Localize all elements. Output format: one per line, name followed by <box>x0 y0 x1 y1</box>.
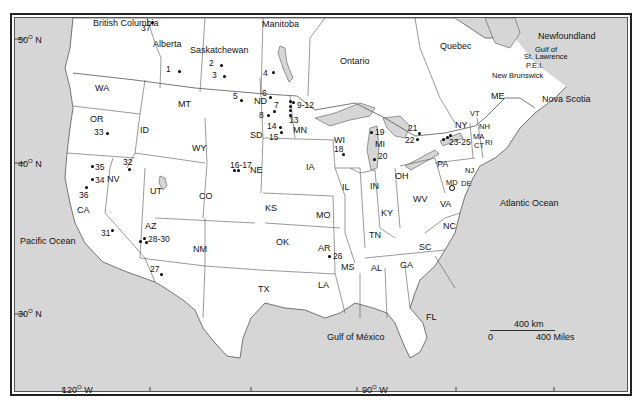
state-pa: PA <box>437 160 448 169</box>
site-marker <box>240 99 243 102</box>
state-wv: WV <box>413 195 428 204</box>
site-label-9-12: 9-12 <box>297 101 314 110</box>
province-manitoba: Manitoba <box>262 20 299 29</box>
site-label-20: 20 <box>378 152 387 161</box>
state-nv: NV <box>107 175 120 184</box>
state-al: AL <box>371 264 382 273</box>
state-nm: NM <box>193 245 207 254</box>
scale-miles-label: 400 Miles <box>536 333 575 342</box>
site-marker <box>279 126 282 129</box>
site-label-15: 15 <box>269 133 278 142</box>
site-label-34: 34 <box>95 176 104 185</box>
state-mn: MN <box>293 126 307 135</box>
site-marker <box>111 229 114 232</box>
state-mt: MT <box>178 100 191 109</box>
scale-bar-line <box>490 330 555 331</box>
site-label-1: 1 <box>166 65 171 74</box>
site-marker <box>442 138 445 141</box>
site-label-2: 2 <box>209 59 214 68</box>
site-label-5: 5 <box>233 92 238 101</box>
state-co: CO <box>199 192 213 201</box>
site-marker <box>418 132 421 135</box>
site-marker <box>289 109 292 112</box>
site-label-6: 6 <box>262 89 267 98</box>
lon-label-90w: 90O W <box>362 384 388 395</box>
state-wa: WA <box>95 84 109 93</box>
state-sc: SC <box>419 243 432 252</box>
province-pei: P.E.I. <box>526 62 543 70</box>
state-mo: MO <box>316 211 331 220</box>
lon-label-120w: 120O W <box>62 384 93 395</box>
scale-zero-label: 0 <box>488 333 493 342</box>
site-marker <box>91 165 94 168</box>
site-label-4: 4 <box>263 69 268 78</box>
site-label-19: 19 <box>375 128 384 137</box>
state-nj: NJ <box>465 167 474 175</box>
scale-km-label: 400 km <box>514 320 544 329</box>
state-ca: CA <box>77 206 90 215</box>
site-marker <box>370 131 373 134</box>
lat-label-50n: 50O N <box>18 34 42 45</box>
site-marker <box>91 178 94 181</box>
state-il: IL <box>342 183 350 192</box>
site-marker <box>269 96 272 99</box>
province-alberta: Alberta <box>153 40 182 49</box>
site-label-32: 32 <box>123 158 132 167</box>
province-nova-scotia: Nova Scotia <box>542 95 591 104</box>
site-label-33: 33 <box>94 128 103 137</box>
site-label-36: 36 <box>79 191 88 200</box>
state-ri: RI <box>485 139 493 147</box>
site-label-14: 14 <box>267 122 276 131</box>
site-label-13: 13 <box>289 116 298 125</box>
state-ga: GA <box>400 261 413 270</box>
state-ia: IA <box>306 163 315 172</box>
state-ok: OK <box>276 238 289 247</box>
scale-bar: 400 km 0 400 Miles <box>488 318 578 342</box>
state-nc: NC <box>443 222 456 231</box>
site-label-37: 37 <box>141 24 150 33</box>
site-marker <box>280 131 283 134</box>
water-gulf-of-mexico: Gulf of México <box>327 333 385 342</box>
site-label-35: 35 <box>95 163 104 172</box>
state-az: AZ <box>145 222 157 231</box>
site-marker <box>272 71 275 74</box>
site-marker <box>267 114 270 117</box>
state-la: LA <box>318 281 329 290</box>
state-tx: TX <box>258 285 270 294</box>
state-de: DE <box>461 180 471 188</box>
site-label-18: 18 <box>334 145 343 154</box>
province-ontario: Ontario <box>340 57 370 66</box>
site-marker <box>289 105 292 108</box>
site-label-22: 22 <box>405 136 414 145</box>
site-label-26: 26 <box>333 252 342 261</box>
land-mass <box>65 18 575 358</box>
state-ky: KY <box>381 209 393 218</box>
site-marker <box>139 240 142 243</box>
state-nd: ND <box>254 97 267 106</box>
site-marker <box>223 75 226 78</box>
site-marker <box>85 186 88 189</box>
state-ut: UT <box>150 187 162 196</box>
site-marker <box>178 70 181 73</box>
site-marker <box>328 255 331 258</box>
state-va: VA <box>440 200 451 209</box>
state-ar: AR <box>318 244 331 253</box>
site-marker <box>128 168 131 171</box>
water-pacific-ocean: Pacific Ocean <box>20 237 76 246</box>
water-atlantic-ocean: Atlantic Ocean <box>500 199 559 208</box>
state-me: ME <box>491 92 505 101</box>
state-or: OR <box>90 115 104 124</box>
site-label-21: 21 <box>408 124 417 133</box>
state-ma: MA <box>473 133 484 141</box>
site-label-31: 31 <box>101 229 110 238</box>
state-ny: NY <box>455 121 468 130</box>
lat-label-30n: 30O N <box>18 308 42 319</box>
state-vt: VT <box>470 110 480 118</box>
state-id: ID <box>140 126 149 135</box>
site-marker <box>143 237 146 240</box>
state-ms: MS <box>341 263 355 272</box>
site-marker <box>416 138 419 141</box>
site-marker <box>151 21 154 24</box>
lat-label-40n: 40O N <box>18 158 42 169</box>
state-ct: CT <box>474 142 484 150</box>
